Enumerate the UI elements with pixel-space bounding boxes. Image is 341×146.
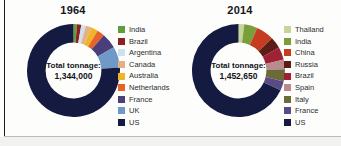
legend-item-label: India (295, 36, 311, 48)
legend-swatch-icon (284, 26, 291, 33)
legend-item-label: US (295, 117, 305, 129)
legend-2014: ThailandIndiaChinaRussiaBrazilSpainItaly… (284, 24, 324, 128)
legend-swatch-icon (118, 73, 125, 80)
legend-item-us: US (284, 117, 324, 129)
bottom-margin-strip (0, 137, 341, 146)
donut-svg-1964 (25, 22, 122, 119)
legend-swatch-icon (284, 107, 291, 114)
legend-item-label: Brazil (129, 36, 148, 48)
legend-item-brazil: Brazil (118, 36, 169, 48)
legend-item-india: India (118, 24, 169, 36)
legend-item-label: UK (129, 105, 139, 117)
legend-item-canada: Canada (118, 59, 169, 71)
legend-item-label: China (295, 47, 315, 59)
donut-svg-2014 (190, 22, 287, 119)
legend-swatch-icon (284, 38, 291, 45)
legend-swatch-icon (284, 96, 291, 103)
legend-swatch-icon (118, 49, 125, 56)
legend-swatch-icon (284, 73, 291, 80)
legend-item-label: Brazil (295, 70, 314, 82)
legend-swatch-icon (118, 61, 125, 68)
chart-panel-1964: 1964 Total tonnage: 1,344,000 IndiaBrazi… (8, 0, 170, 136)
legend-item-france: France (118, 94, 169, 106)
legend-item-label: Russia (295, 59, 318, 71)
legend-1964: IndiaBrazilArgentinaCanadaAustraliaNethe… (118, 24, 169, 128)
legend-item-label: Argentina (129, 47, 161, 59)
legend-item-france: France (284, 105, 324, 117)
legend-item-thailand: Thailand (284, 24, 324, 36)
legend-swatch-icon (284, 49, 291, 56)
donut-chart-1964: Total tonnage: 1,344,000 (25, 22, 122, 119)
legend-item-label: France (129, 94, 152, 106)
legend-item-brazil: Brazil (284, 70, 324, 82)
legend-swatch-icon (284, 61, 291, 68)
legend-item-india: India (284, 36, 324, 48)
legend-item-italy: Italy (284, 94, 324, 106)
legend-item-us: US (118, 117, 169, 129)
legend-swatch-icon (118, 38, 125, 45)
chart-year-label-2014: 2014 (190, 4, 290, 16)
chart-year-label-1964: 1964 (26, 4, 120, 16)
legend-item-argentina: Argentina (118, 47, 169, 59)
legend-item-label: Canada (129, 59, 155, 71)
legend-swatch-icon (118, 96, 125, 103)
donut-chart-2014: Total tonnage: 1,452,650 (190, 22, 287, 119)
legend-item-label: Italy (295, 94, 309, 106)
legend-swatch-icon (118, 26, 125, 33)
chart-panel-2014: 2014 Total tonnage: 1,452,650 ThailandIn… (170, 0, 341, 136)
legend-item-label: Spain (295, 82, 314, 94)
legend-swatch-icon (284, 84, 291, 91)
legend-item-label: Thailand (295, 24, 324, 36)
legend-swatch-icon (118, 119, 125, 126)
figure-root: 1964 Total tonnage: 1,344,000 IndiaBrazi… (0, 0, 341, 146)
legend-item-label: France (295, 105, 318, 117)
legend-item-label: India (129, 24, 145, 36)
legend-swatch-icon (118, 84, 125, 91)
legend-item-uk: UK (118, 105, 169, 117)
legend-item-russia: Russia (284, 59, 324, 71)
legend-item-netherlands: Netherlands (118, 82, 169, 94)
legend-item-label: Netherlands (129, 82, 169, 94)
legend-item-spain: Spain (284, 82, 324, 94)
legend-swatch-icon (284, 119, 291, 126)
legend-swatch-icon (118, 107, 125, 114)
legend-item-australia: Australia (118, 70, 169, 82)
legend-item-china: China (284, 47, 324, 59)
legend-item-label: Australia (129, 70, 158, 82)
legend-item-label: US (129, 117, 139, 129)
left-border-rule (4, 0, 5, 138)
